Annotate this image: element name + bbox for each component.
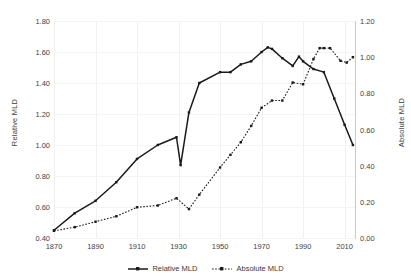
data-point-marker	[271, 99, 273, 101]
x-axis-tick-label: 1890	[76, 242, 116, 251]
data-point-marker	[250, 60, 252, 62]
plot-area	[54, 21, 355, 238]
data-point-marker	[267, 46, 269, 48]
data-point-marker	[94, 221, 96, 223]
data-point-marker	[74, 212, 76, 214]
data-point-marker	[319, 47, 321, 49]
data-point-marker	[188, 111, 190, 113]
data-point-marker	[240, 63, 242, 65]
data-point-marker	[219, 71, 221, 73]
data-point-marker	[53, 230, 55, 232]
data-point-marker	[229, 71, 231, 73]
y-axis-right-tick-label: 0.20	[360, 197, 400, 206]
y-axis-left-tick-label: 1.20	[10, 110, 50, 119]
data-point-marker	[250, 125, 252, 127]
data-point-marker	[281, 57, 283, 59]
y-axis-left-title: Relative MLD	[10, 83, 19, 163]
y-axis-right-tick-label: 1.00	[360, 53, 400, 62]
legend-label: Relative MLD	[152, 264, 197, 273]
data-point-marker	[136, 206, 138, 208]
data-point-marker	[188, 208, 190, 210]
x-axis-tick-label: 1990	[283, 242, 323, 251]
legend-item[interactable]: Relative MLD	[127, 264, 197, 273]
data-point-marker	[198, 193, 200, 195]
data-point-marker	[352, 144, 354, 146]
y-axis-left-tick-label: 1.00	[10, 141, 50, 150]
data-point-marker	[271, 48, 273, 50]
y-axis-right-tick-label: 0.00	[360, 234, 400, 243]
x-axis-tick-label: 1950	[200, 242, 240, 251]
x-axis-tick-label: 1930	[159, 242, 199, 251]
data-point-marker	[219, 166, 221, 168]
data-point-marker	[94, 200, 96, 202]
data-point-marker	[115, 215, 117, 217]
data-point-marker	[229, 154, 231, 156]
data-point-marker	[312, 58, 314, 60]
y-axis-right-tick-label: 1.20	[360, 17, 400, 26]
data-point-marker	[339, 60, 341, 62]
data-point-marker	[329, 47, 331, 49]
data-point-marker	[157, 144, 159, 146]
y-axis-right-line	[355, 21, 356, 239]
chart-container: Relative MLD Absolute MLD 0.400.600.801.…	[0, 0, 411, 280]
y-axis-left-tick-label: 0.80	[10, 172, 50, 181]
data-point-marker	[346, 61, 348, 63]
data-point-marker	[281, 99, 283, 101]
y-axis-left-tick-label: 1.60	[10, 48, 50, 57]
y-axis-left-tick-label: 1.80	[10, 17, 50, 26]
y-axis-left-tick-label: 1.40	[10, 79, 50, 88]
data-point-marker	[260, 51, 262, 53]
data-point-marker	[302, 83, 304, 85]
x-axis-tick-label: 1910	[117, 242, 157, 251]
data-point-marker	[74, 226, 76, 228]
data-point-marker	[302, 60, 304, 62]
series-layer	[54, 21, 355, 238]
data-point-marker	[333, 97, 335, 99]
y-axis-right-tick-label: 0.80	[360, 89, 400, 98]
x-axis-tick-label: 1970	[242, 242, 282, 251]
data-point-marker	[292, 65, 294, 67]
data-point-marker	[260, 107, 262, 109]
data-point-marker	[298, 55, 300, 57]
gridline-horizontal	[54, 238, 355, 239]
data-point-marker	[292, 81, 294, 83]
data-point-marker	[136, 158, 138, 160]
data-point-marker	[179, 164, 181, 166]
data-point-marker	[343, 124, 345, 126]
data-point-marker	[240, 141, 242, 143]
data-point-marker	[198, 82, 200, 84]
data-point-marker	[175, 136, 177, 138]
legend-label: Absolute MLD	[236, 264, 283, 273]
legend-marker-icon	[127, 265, 149, 273]
data-point-marker	[323, 71, 325, 73]
series-line	[54, 47, 353, 230]
chart-legend: Relative MLDAbsolute MLD	[0, 264, 411, 273]
data-point-marker	[352, 56, 354, 58]
x-axis-tick-label: 2010	[325, 242, 365, 251]
legend-item[interactable]: Absolute MLD	[211, 264, 283, 273]
data-point-marker	[312, 68, 314, 70]
data-point-marker	[115, 181, 117, 183]
data-point-marker	[157, 204, 159, 206]
series-line	[54, 48, 353, 231]
data-point-marker	[323, 47, 325, 49]
legend-marker-icon	[211, 265, 233, 273]
y-axis-right-tick-label: 0.40	[360, 161, 400, 170]
y-axis-right-tick-label: 0.60	[360, 125, 400, 134]
x-axis-tick-label: 1870	[34, 242, 74, 251]
data-point-marker	[175, 197, 177, 199]
y-axis-left-tick-label: 0.60	[10, 203, 50, 212]
